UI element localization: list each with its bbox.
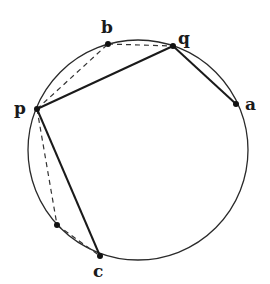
point-c [97,253,103,259]
segment-q-a [173,46,236,104]
label-p: p [14,98,26,118]
circle-diagram: b q p a c [0,0,270,284]
point-q [170,43,176,49]
circle [28,40,248,260]
segment-b-q [108,44,173,46]
label-q: q [178,28,190,48]
point-b [105,41,111,47]
point-a [233,101,239,107]
point-p [34,106,40,112]
segment-p-q [37,46,173,109]
point-d [54,222,60,228]
label-b: b [101,17,113,37]
label-a: a [245,94,256,114]
solid-segments [37,46,236,256]
label-c: c [93,261,103,281]
points [34,41,239,259]
segment-p-d [37,109,57,225]
segment-p-b [37,44,108,109]
segment-p-c [37,109,100,256]
